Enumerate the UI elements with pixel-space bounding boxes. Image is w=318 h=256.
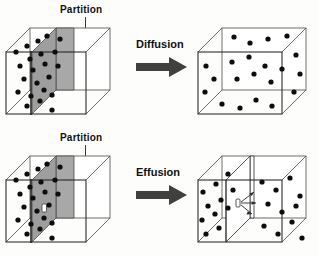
process-label-diffusion: Diffusion — [136, 38, 184, 50]
cube-effusion-before — [0, 150, 118, 254]
effusion-row: Partition Effusion — [0, 128, 318, 256]
diffusion-effusion-diagram: Partition Diffusion — [0, 0, 318, 256]
cube-diffusion-before — [0, 22, 118, 126]
cube-diffusion-after — [192, 22, 314, 126]
diffusion-process-arrow — [136, 56, 188, 82]
cube-effusion-after — [192, 150, 314, 254]
thin-partition-effusion-after — [250, 156, 254, 218]
partition-label-diffusion: Partition — [60, 4, 102, 15]
partition-hole-effusion-before — [42, 204, 47, 212]
diffusion-row: Partition Diffusion — [0, 0, 318, 128]
partition-hole-effusion-after — [236, 199, 240, 207]
partition-label-effusion: Partition — [60, 132, 102, 143]
process-label-effusion: Effusion — [136, 166, 180, 178]
effusion-process-arrow — [136, 184, 188, 210]
